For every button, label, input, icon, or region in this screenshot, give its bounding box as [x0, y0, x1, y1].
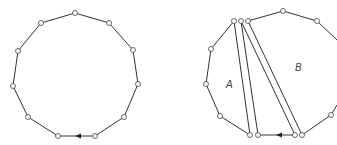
right-polygon	[206, 11, 337, 135]
polygon-diagram: A B	[0, 0, 337, 145]
right-arrow-icon	[276, 133, 282, 138]
region-a-label: A	[225, 79, 233, 90]
region-b-label: B	[295, 62, 302, 73]
left-arrow-icon	[75, 134, 81, 139]
left-polygon	[13, 13, 138, 136]
